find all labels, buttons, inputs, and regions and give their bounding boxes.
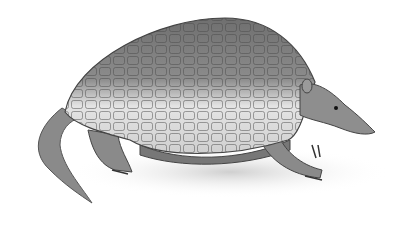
armadillo-illustration [0, 0, 412, 225]
ear [302, 79, 312, 93]
eye [334, 106, 338, 110]
